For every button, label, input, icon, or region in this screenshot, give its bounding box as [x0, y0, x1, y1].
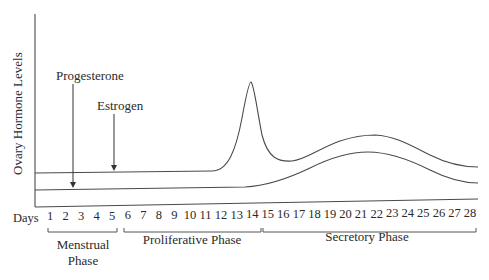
day-label-16: 16	[277, 207, 290, 221]
proliferative-phase-label: Proliferative Phase	[143, 232, 242, 247]
day-label-13: 13	[230, 208, 243, 222]
day-label-11: 11	[200, 208, 212, 222]
day-label-6: 6	[125, 208, 131, 222]
day-label-17: 17	[293, 207, 306, 221]
y-axis-label: Ovary Hormone Levels	[10, 52, 25, 175]
day-label-19: 19	[324, 207, 337, 221]
day-label-15: 15	[262, 207, 275, 221]
secretory-phase-label: Secretory Phase	[325, 229, 409, 244]
day-labels: 1234567891011121314151617181920212223242…	[47, 206, 476, 223]
day-label-27: 27	[448, 206, 461, 220]
menstrual-phase-label-line2: Phase	[68, 253, 99, 268]
day-label-4: 4	[94, 209, 101, 223]
estrogen-arrowhead-icon	[111, 165, 117, 171]
days-label: Days	[13, 211, 39, 225]
day-label-21: 21	[355, 207, 368, 221]
day-label-1: 1	[47, 209, 53, 223]
day-label-28: 28	[464, 206, 477, 220]
day-label-22: 22	[370, 207, 383, 221]
hormone-cycle-diagram: Ovary Hormone Levels Progesterone Estrog…	[0, 0, 489, 280]
day-label-10: 10	[184, 208, 197, 222]
day-label-24: 24	[402, 206, 415, 220]
menstrual-phase-bracket	[48, 228, 117, 232]
day-label-2: 2	[62, 209, 68, 223]
menstrual-phase-label: Menstrual	[57, 237, 110, 252]
day-label-12: 12	[215, 208, 228, 222]
progesterone-arrowhead-icon	[70, 182, 76, 188]
progesterone-label: Progesterone	[56, 68, 124, 83]
day-label-18: 18	[308, 207, 321, 221]
day-label-5: 5	[109, 209, 115, 223]
progesterone-curve	[35, 152, 478, 190]
day-label-25: 25	[417, 206, 430, 220]
day-label-23: 23	[386, 206, 399, 220]
estrogen-label: Estrogen	[97, 98, 144, 113]
day-label-7: 7	[140, 208, 146, 222]
day-label-3: 3	[78, 209, 84, 223]
day-label-14: 14	[246, 207, 259, 221]
day-label-8: 8	[156, 208, 162, 222]
day-label-26: 26	[433, 206, 446, 220]
estrogen-curve	[35, 82, 478, 173]
day-label-20: 20	[339, 207, 352, 221]
day-label-9: 9	[171, 208, 177, 222]
